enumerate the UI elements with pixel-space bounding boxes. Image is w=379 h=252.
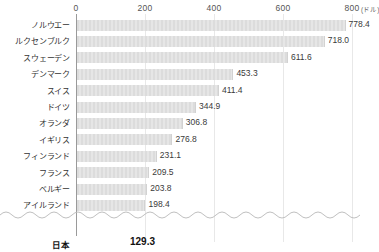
bar-value-label: 198.4	[148, 199, 169, 209]
bar	[77, 151, 157, 162]
bar-row: イギリス276.8	[0, 132, 363, 149]
category-label: ベルギー	[0, 183, 70, 194]
category-label: フィンランド	[0, 150, 70, 161]
bar-value-label: 306.8	[186, 117, 207, 127]
axis-break-wave	[0, 209, 363, 221]
bar-row: デンマーク453.3	[0, 66, 363, 83]
bar	[77, 102, 196, 113]
bar-value-label: 231.1	[160, 150, 181, 160]
bar-row: ノルウエー778.4	[0, 17, 363, 34]
bar	[77, 69, 233, 80]
bar-value-label: 411.4	[222, 85, 243, 95]
category-label: ドイツ	[0, 101, 70, 112]
bar	[77, 118, 183, 129]
category-label: スイス	[0, 85, 70, 96]
bar-row: スウェーデン611.6	[0, 50, 363, 67]
x-tick-label: 200	[138, 3, 153, 13]
category-label: デンマーク	[0, 68, 70, 79]
bar-value-label: 778.4	[349, 19, 370, 29]
bar-value-label: 203.8	[150, 183, 171, 193]
bar-value-label: 129.3	[130, 236, 155, 247]
bar-row: ベルギー203.8	[0, 181, 363, 198]
bar-row: ルクセンブルク718.0	[0, 33, 363, 50]
bar	[77, 20, 346, 31]
x-tick-label: 800	[345, 3, 360, 13]
axis-unit-label: (ドル)	[361, 4, 379, 14]
bar	[77, 36, 325, 47]
bar-value-label: 453.3	[236, 68, 257, 78]
bar-row: スイス411.4	[0, 83, 363, 100]
bar-row: フィンランド231.1	[0, 148, 363, 165]
category-label: 日本	[0, 238, 70, 250]
bar-row-highlighted: 日本129.3	[0, 236, 363, 252]
x-tick-label: 0	[74, 3, 79, 13]
bar	[77, 134, 172, 145]
x-tick-label: 600	[276, 3, 291, 13]
category-label: ノルウエー	[0, 19, 70, 30]
category-label: オランダ	[0, 117, 70, 128]
bar	[77, 167, 149, 178]
category-label: ルクセンブルク	[0, 35, 70, 46]
bar-value-label: 344.9	[199, 101, 220, 111]
bar-value-label: 209.5	[152, 167, 173, 177]
bar-value-label: 276.8	[175, 134, 196, 144]
bar	[77, 52, 288, 63]
category-label: フランス	[0, 167, 70, 178]
bar-row: ドイツ344.9	[0, 99, 363, 116]
category-label: イギリス	[0, 134, 70, 145]
bar-value-label: 611.6	[291, 52, 312, 62]
bar	[77, 85, 219, 96]
bar-row: フランス209.5	[0, 165, 363, 182]
category-label: スウェーデン	[0, 52, 70, 63]
bar-row: オランダ306.8	[0, 115, 363, 132]
bar	[77, 238, 121, 249]
x-tick-label: 400	[207, 3, 222, 13]
bar	[77, 184, 147, 195]
bar-value-label: 718.0	[328, 35, 349, 45]
